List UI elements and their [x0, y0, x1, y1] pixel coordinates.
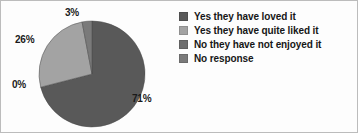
legend-item-label: No response	[194, 53, 253, 64]
pie-slices	[39, 21, 145, 127]
legend-swatch-icon	[179, 12, 188, 21]
legend-swatch-icon	[179, 26, 188, 35]
pie-plot-area: 71% 26% 0% 3%	[1, 1, 181, 133]
legend-swatch-icon	[179, 54, 188, 63]
legend-item-label: Yes they have quite liked it	[194, 25, 318, 36]
legend-item-no-not-enjoyed-it[interactable]: No they have not enjoyed it	[179, 38, 357, 51]
data-label-0: 0%	[12, 79, 26, 90]
data-label-26: 26%	[15, 34, 34, 45]
pie-svg	[1, 1, 181, 133]
legend-item-label: Yes they have loved it	[194, 11, 296, 22]
legend-item-no-response[interactable]: No response	[179, 52, 357, 65]
legend-swatch-icon	[179, 40, 188, 49]
legend-item-yes-loved-it[interactable]: Yes they have loved it	[179, 10, 357, 23]
data-label-3: 3%	[65, 7, 79, 18]
pie-chart-figure: 71% 26% 0% 3% Yes they have loved it Yes…	[0, 0, 358, 133]
legend-item-yes-quite-liked-it[interactable]: Yes they have quite liked it	[179, 24, 357, 37]
legend-item-label: No they have not enjoyed it	[194, 39, 321, 50]
chart-legend: Yes they have loved it Yes they have qui…	[179, 10, 357, 66]
data-label-71: 71%	[132, 93, 151, 104]
